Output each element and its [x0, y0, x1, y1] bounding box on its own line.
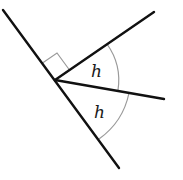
- angle-label-upper: h: [91, 61, 102, 81]
- angle-label-lower: h: [94, 102, 105, 122]
- angle-arc-upper: [107, 44, 119, 90]
- middle-ray: [55, 80, 164, 99]
- angle-diagram: h h: [0, 0, 183, 180]
- upper-ray: [55, 12, 154, 80]
